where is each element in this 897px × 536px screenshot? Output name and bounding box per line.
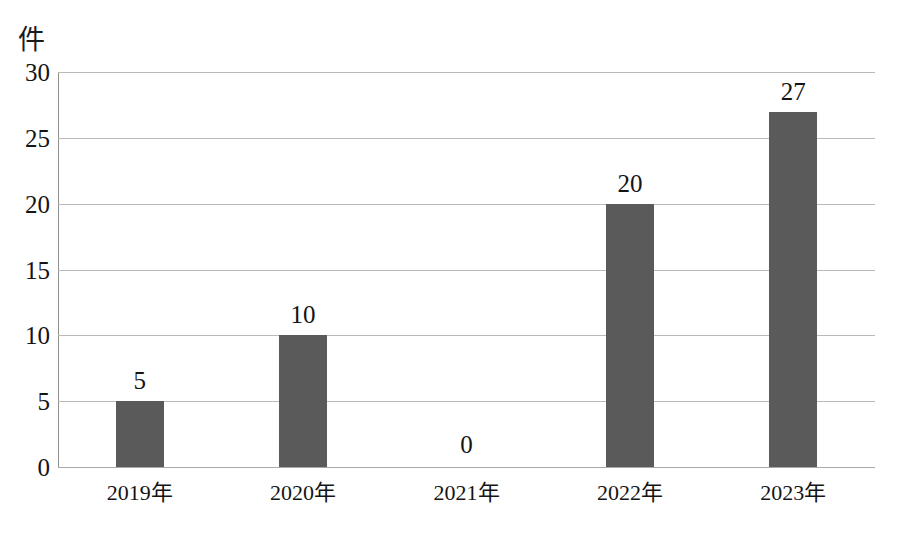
x-axis-tick-label-2020年: 2020年 [243, 480, 363, 506]
bar-2019年[interactable] [116, 401, 164, 467]
bar-value-label-2021年: 0 [427, 432, 507, 457]
y-axis-tick-label: 20 [4, 192, 50, 217]
x-axis-tick-label-group: 2019年2020年2021年2022年2023年 [58, 480, 875, 520]
x-axis-tick-label-2023年: 2023年 [733, 480, 853, 506]
bar-2022年[interactable] [606, 204, 654, 467]
bar-chart: 件 051015202530 51002027 2019年2020年2021年2… [0, 0, 897, 536]
y-axis-tick-label: 5 [4, 389, 50, 414]
x-axis-tick-label-2019年: 2019年 [80, 480, 200, 506]
y-axis-tick-label: 15 [4, 258, 50, 283]
bar-value-label-2020年: 10 [263, 302, 343, 327]
x-axis-tick-label-2021年: 2021年 [407, 480, 527, 506]
y-axis-tick-label: 30 [4, 60, 50, 85]
bar-value-label-2022年: 20 [590, 171, 670, 196]
bar-2023年[interactable] [769, 112, 817, 468]
gridline-20 [58, 204, 875, 205]
y-axis-tick-label: 0 [4, 455, 50, 480]
gridline-0 [58, 467, 875, 468]
bar-value-label-2019年: 5 [100, 368, 180, 393]
gridline-25 [58, 138, 875, 139]
gridline-5 [58, 401, 875, 402]
x-axis-tick-label-2022年: 2022年 [570, 480, 690, 506]
y-axis-tick-label-group: 051015202530 [0, 0, 50, 536]
gridline-15 [58, 270, 875, 271]
plot-area: 51002027 [58, 72, 875, 467]
y-axis-tick-label: 25 [4, 126, 50, 151]
bar-value-label-2023年: 27 [753, 79, 833, 104]
bar-2020年[interactable] [279, 335, 327, 467]
gridline-10 [58, 335, 875, 336]
gridline-30 [58, 72, 875, 73]
y-axis-tick-label: 10 [4, 323, 50, 348]
